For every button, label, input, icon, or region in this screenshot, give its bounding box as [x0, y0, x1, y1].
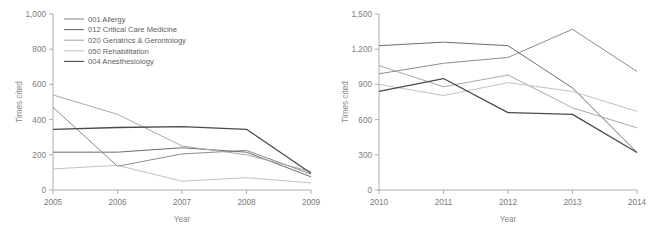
right-series-group	[379, 29, 637, 152]
right-x-tick-group: 20102011201220132014	[370, 190, 647, 207]
series-line	[53, 165, 311, 183]
series-line	[379, 83, 637, 112]
legend-item-label: 001 Allergy	[88, 15, 126, 24]
y-tick-label: 300	[358, 151, 372, 160]
left-y-axis-title: Times cited	[15, 81, 24, 123]
x-tick-label: 2006	[108, 198, 127, 207]
right-chart-axes	[379, 14, 637, 190]
x-tick-label: 2007	[173, 198, 192, 207]
legend-item-label: 004 Anesthesiology	[88, 57, 154, 66]
chart-legend: 001 Allergy012 Critical Care Medicine020…	[64, 15, 186, 66]
x-tick-label: 2005	[44, 198, 63, 207]
series-line	[379, 29, 637, 74]
x-tick-label: 2013	[563, 198, 582, 207]
x-tick-label: 2011	[435, 198, 453, 207]
y-tick-label: 900	[358, 80, 372, 89]
left-x-axis-title: Year	[174, 215, 191, 224]
x-tick-label: 2010	[370, 198, 389, 207]
y-tick-label: 200	[32, 151, 46, 160]
y-tick-label: 1,200	[352, 45, 373, 54]
right-x-axis-title: Year	[500, 215, 517, 224]
series-line	[379, 66, 637, 128]
x-tick-label: 2014	[628, 198, 647, 207]
legend-item-label: 020 Geriatrics & Gerontology	[88, 36, 186, 45]
right-chart-panel: 03006009001,2001,500 2010201120122013201…	[326, 0, 652, 230]
y-tick-label: 800	[32, 45, 46, 54]
left-series-group	[53, 95, 311, 183]
left-chart-svg: 02004006008001,000 20052006200720082009 …	[0, 0, 326, 230]
x-tick-label: 2009	[302, 198, 321, 207]
y-tick-label: 0	[41, 186, 46, 195]
legend-item-label: 050 Rehabilitation	[88, 47, 149, 56]
y-tick-label: 400	[32, 116, 46, 125]
y-tick-label: 1,000	[26, 10, 47, 19]
left-x-tick-group: 20052006200720082009	[44, 190, 321, 207]
x-tick-label: 2008	[237, 198, 256, 207]
right-chart-svg: 03006009001,2001,500 2010201120122013201…	[326, 0, 652, 230]
series-line	[53, 148, 311, 177]
left-chart-panel: 02004006008001,000 20052006200720082009 …	[0, 0, 326, 230]
y-tick-label: 0	[367, 186, 372, 195]
y-tick-label: 600	[358, 116, 372, 125]
y-tick-label: 600	[32, 80, 46, 89]
two-panel-line-chart-figure: 02004006008001,000 20052006200720082009 …	[0, 0, 652, 230]
right-y-tick-group: 03006009001,2001,500	[352, 10, 380, 195]
series-line	[53, 107, 311, 174]
series-line	[379, 42, 637, 152]
left-y-tick-group: 02004006008001,000	[26, 10, 54, 195]
y-tick-label: 1,500	[352, 10, 373, 19]
legend-item-label: 012 Critical Care Medicine	[88, 25, 177, 34]
right-y-axis-title: Times cited	[341, 81, 350, 123]
x-tick-label: 2012	[499, 198, 518, 207]
